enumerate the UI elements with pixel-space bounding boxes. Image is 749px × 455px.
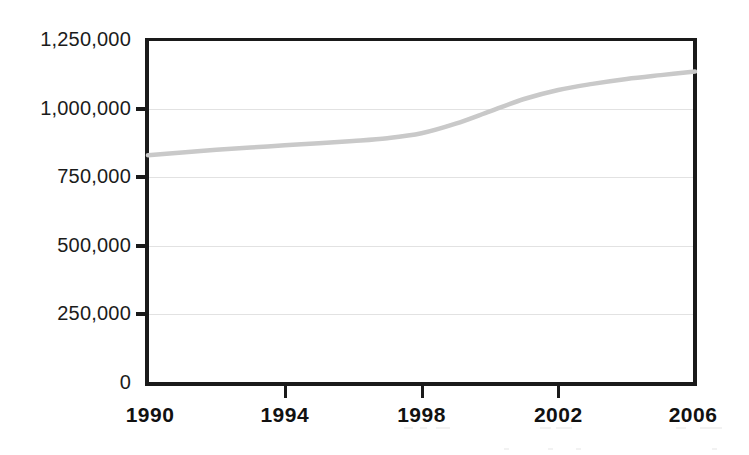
x-axis-label: 1998 — [397, 404, 446, 425]
x-axis-label: 1994 — [260, 404, 309, 425]
y-axis-label: 250,000 — [3, 303, 131, 323]
scan-speckle — [420, 427, 427, 429]
y-axis-label: 1,250,000 — [3, 29, 131, 49]
y-axis-tick-500000 — [136, 244, 149, 248]
plot-border-right — [693, 38, 697, 386]
x-axis-tick-2002 — [557, 386, 560, 398]
plot-border-top — [145, 38, 697, 41]
plot-area — [148, 40, 695, 383]
scan-speckle — [548, 448, 553, 450]
y-axis-label: 750,000 — [3, 166, 131, 186]
x-axis-label: 2002 — [534, 404, 583, 425]
gridline-y-500000 — [148, 246, 695, 247]
x-axis-label: 1990 — [126, 404, 175, 425]
x-axis-label: 2006 — [669, 404, 718, 425]
scan-speckle — [556, 427, 572, 429]
x-axis-tick-1998 — [421, 386, 424, 398]
scan-speckle — [404, 427, 413, 429]
scan-speckle — [676, 427, 686, 429]
scan-speckle — [576, 448, 581, 450]
gridline-y-250000 — [148, 314, 695, 315]
scan-speckle — [700, 427, 722, 429]
scan-speckle — [504, 448, 509, 450]
y-axis-label: 500,000 — [3, 235, 131, 255]
y-axis-tick-250000 — [136, 312, 149, 316]
y-axis-tick-750000 — [136, 175, 149, 179]
y-axis-labels: 1,250,0001,000,000750,000500,000250,0000 — [0, 0, 131, 455]
gridline-y-1000000 — [148, 109, 695, 110]
y-axis-line — [145, 38, 149, 386]
scan-speckle — [540, 427, 551, 429]
x-axis-tick-1994 — [284, 386, 287, 398]
y-axis-label: 0 — [3, 372, 131, 392]
gridline-y-750000 — [148, 177, 695, 178]
scan-speckle — [436, 427, 450, 429]
y-axis-label: 1,000,000 — [3, 98, 131, 118]
y-axis-tick-1000000 — [136, 107, 149, 111]
scan-speckle — [712, 448, 717, 450]
line-chart-figure: 1,250,0001,000,000750,000500,000250,0000… — [0, 0, 749, 455]
